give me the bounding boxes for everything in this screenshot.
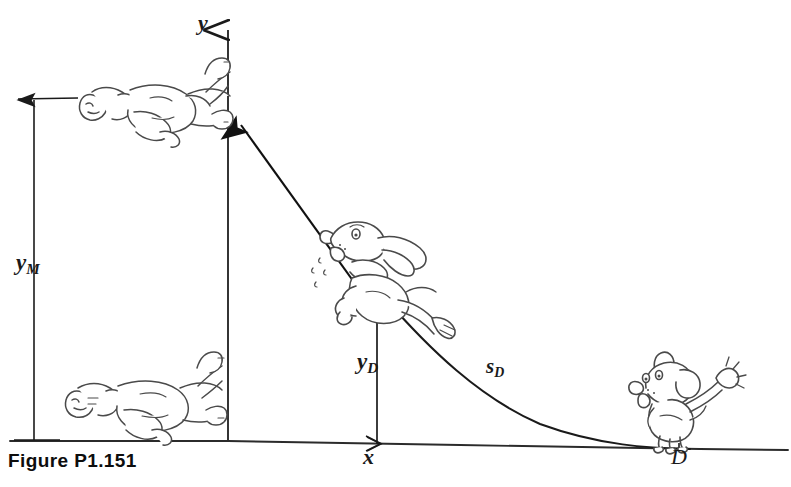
flying-dog [312, 222, 455, 338]
x-axis-label: x [363, 446, 374, 468]
y-dog-subscript: D [367, 359, 378, 376]
figure-drawing [0, 0, 791, 487]
standing-dog-waving [629, 352, 746, 454]
s-dog-label: sD [486, 356, 504, 377]
velocity-arrow [241, 125, 369, 303]
trajectory-curve [383, 296, 690, 449]
reclining-person-lower [65, 352, 227, 445]
y-axis-label: y [198, 12, 208, 34]
physics-figure: y x yM yD sD D Figure P1.151 [0, 0, 791, 487]
s-dog-subscript: D [494, 365, 504, 380]
y-max-subscript: M [26, 260, 40, 277]
figure-caption: Figure P1.151 [8, 450, 137, 472]
y-dog-label: yD [357, 350, 378, 373]
y-max-label: yM [16, 251, 40, 274]
point-d-label: D [671, 446, 687, 468]
reclining-person-upper [79, 58, 233, 147]
